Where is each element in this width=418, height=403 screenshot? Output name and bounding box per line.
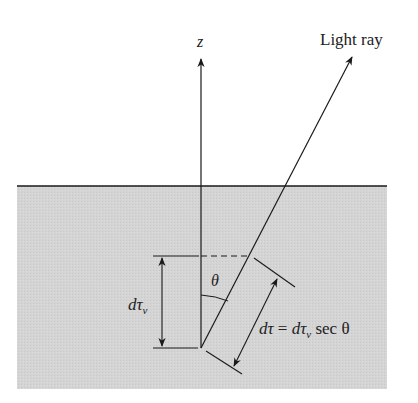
medium-slab (17, 186, 387, 389)
light-ray-label: Light ray (320, 30, 383, 49)
slant-depth-rhs-main: dτ (292, 319, 308, 338)
vertical-depth-main: dτ (128, 295, 144, 314)
radiative-transfer-diagram: z Light ray θ dτν dτ = dτν sec θ (0, 0, 418, 403)
slant-depth-rhs-tail: sec θ (311, 319, 349, 338)
theta-label: θ (211, 272, 219, 289)
slant-depth-label: dτ = dτν sec θ (259, 319, 350, 340)
vertical-depth-sub: ν (143, 304, 148, 316)
slant-depth-lhs: dτ (259, 319, 275, 338)
slant-depth-equals: = (274, 319, 292, 338)
diagram-svg: z Light ray θ dτν dτ = dτν sec θ (0, 0, 418, 403)
z-axis-label: z (196, 33, 204, 50)
